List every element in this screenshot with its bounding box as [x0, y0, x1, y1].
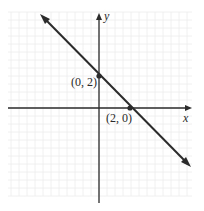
axes [8, 13, 192, 203]
line-graph: (0, 2) (2, 0) x y [0, 0, 204, 211]
point-label-2-0: (2, 0) [106, 111, 132, 125]
x-axis-label: x [182, 111, 189, 125]
line-series [44, 18, 187, 163]
y-axis-label: y [103, 9, 110, 23]
point-0-2 [96, 73, 101, 78]
y-axis-arrow-icon [96, 13, 102, 20]
point-2-0 [127, 105, 132, 110]
point-label-0-2: (0, 2) [71, 75, 97, 89]
grid [8, 12, 192, 196]
